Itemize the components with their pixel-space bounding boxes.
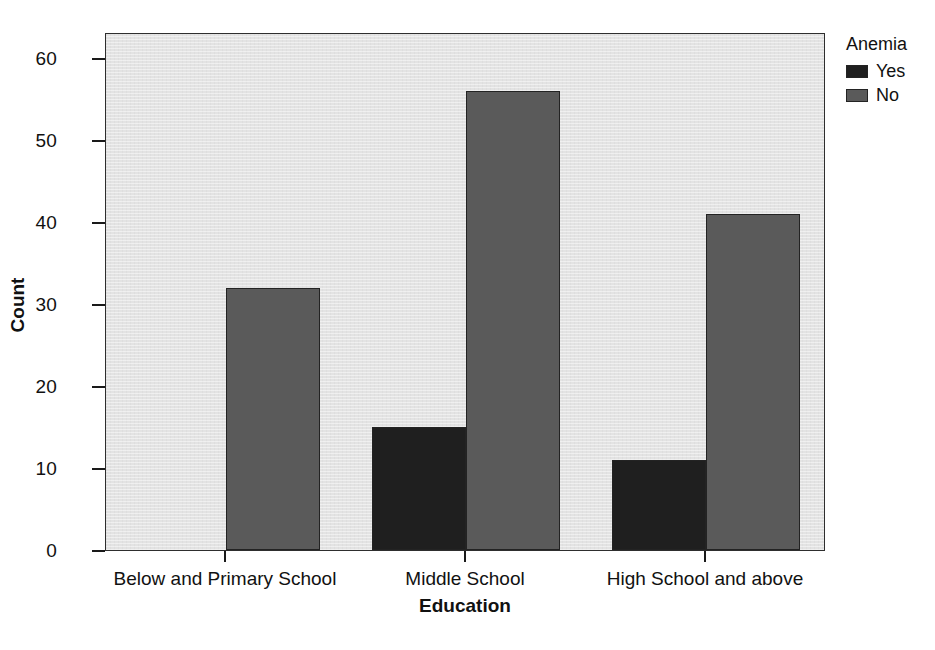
x-axis: Education Below and Primary SchoolMiddle… — [0, 551, 935, 650]
y-tick-mark — [92, 222, 105, 224]
y-tick-mark — [92, 58, 105, 60]
legend-label: No — [876, 85, 899, 106]
legend-entry-no: No — [846, 83, 935, 107]
y-tick-label: 30 — [35, 294, 57, 316]
bar-yes-2 — [612, 460, 706, 550]
x-tick-mark — [224, 551, 226, 562]
y-tick-mark — [92, 140, 105, 142]
y-tick-label: 40 — [35, 212, 57, 234]
bar-no-2 — [706, 214, 800, 550]
legend-entry-yes: Yes — [846, 59, 935, 83]
y-tick-label: 10 — [35, 458, 57, 480]
plot-area — [105, 33, 825, 551]
x-tick-label: High School and above — [607, 568, 803, 590]
y-tick-mark — [92, 468, 105, 470]
y-tick-mark — [92, 386, 105, 388]
x-axis-title: Education — [419, 595, 511, 617]
legend-swatch-yes — [846, 65, 868, 78]
x-tick-mark — [464, 551, 466, 562]
y-tick-label: 60 — [35, 48, 57, 70]
x-tick-label: Below and Primary School — [114, 568, 337, 590]
bar-no-1 — [466, 91, 560, 550]
bar-chart: Count 0102030405060 Education Below and … — [0, 0, 935, 650]
y-tick-label: 20 — [35, 376, 57, 398]
legend-swatch-no — [846, 89, 868, 102]
x-tick-label: Middle School — [405, 568, 524, 590]
legend: Anemia YesNo — [846, 32, 935, 107]
y-tick-mark — [92, 304, 105, 306]
legend-title: Anemia — [846, 32, 935, 56]
y-axis-title: Count — [7, 278, 29, 333]
bar-yes-1 — [372, 427, 466, 550]
y-tick-label: 50 — [35, 130, 57, 152]
x-tick-mark — [704, 551, 706, 562]
bars-layer — [106, 34, 824, 550]
bar-no-0 — [226, 288, 320, 550]
legend-label: Yes — [876, 61, 905, 82]
legend-entries: YesNo — [846, 59, 935, 107]
